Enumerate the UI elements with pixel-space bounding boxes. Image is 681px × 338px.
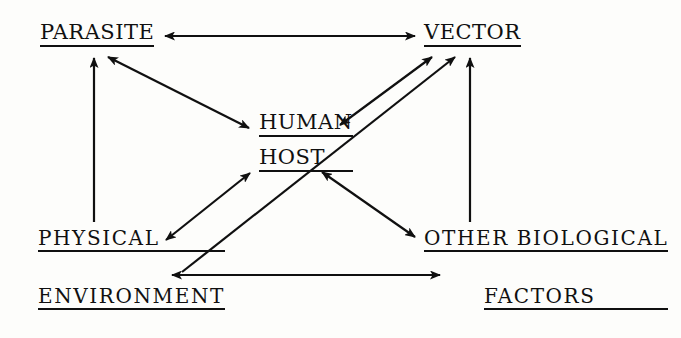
diagram-canvas: PARASITE VECTOR HUMAN HOST PHYSICAL ENVI… xyxy=(0,0,681,338)
edge-human-host-vector xyxy=(340,57,432,125)
node-vector: VECTOR xyxy=(424,22,521,47)
node-vector-label: VECTOR xyxy=(424,22,521,47)
node-parasite-label: PARASITE xyxy=(40,22,154,47)
edge-parasite-human-host xyxy=(108,57,249,128)
node-human-host-label-line2: HOST xyxy=(259,147,353,172)
node-physical-environment-label-line1: PHYSICAL xyxy=(38,228,225,252)
node-physical-environment: PHYSICAL ENVIRONMENT xyxy=(38,228,225,310)
node-other-biological-factors: OTHER BIOLOGICAL FACTORS xyxy=(424,228,668,310)
node-human-host: HUMAN HOST xyxy=(259,112,353,182)
node-parasite: PARASITE xyxy=(40,22,154,47)
node-physical-environment-label-line2: ENVIRONMENT xyxy=(38,286,225,310)
node-other-biological-factors-label-line1: OTHER BIOLOGICAL xyxy=(424,228,668,252)
node-other-biological-factors-label-line2: FACTORS xyxy=(484,286,668,310)
node-human-host-label-line1: HUMAN xyxy=(259,112,353,137)
